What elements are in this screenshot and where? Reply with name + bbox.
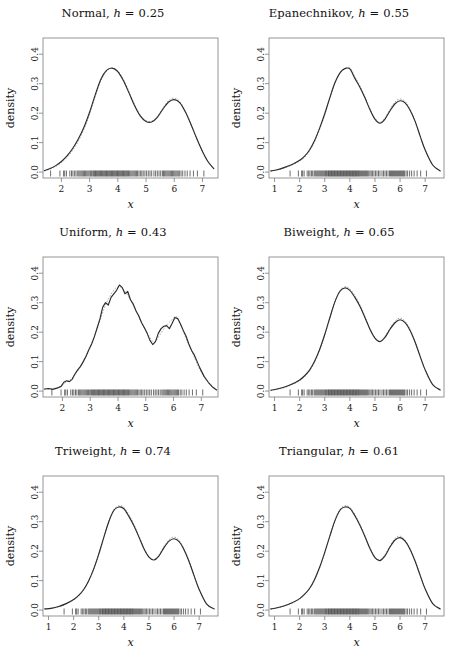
plot-frame (43, 257, 218, 397)
x-tick-label: 6 (397, 403, 403, 413)
x-tick-label: 5 (146, 622, 152, 632)
plot-triangular: 12345670.00.10.20.30.4xdensity (226, 438, 452, 657)
y-tick-label: 0.3 (256, 514, 266, 529)
plot-biweight: 12345670.00.10.20.30.4xdensity (226, 219, 452, 438)
x-tick-label: 3 (322, 184, 328, 194)
rug-plot (64, 609, 200, 615)
reference-curve (45, 506, 214, 610)
panel-epanechnikov: Epanechnikov, h = 0.55 12345670.00.10.20… (226, 0, 452, 219)
y-tick-label: 0.4 (256, 47, 266, 62)
y-tick-label: 0.2 (256, 544, 266, 558)
y-tick-label: 0.2 (30, 106, 40, 120)
x-axis-label: x (353, 198, 360, 211)
y-axis-label: density (4, 306, 17, 347)
x-tick-label: 7 (196, 622, 202, 632)
plot-triweight: 12345670.00.10.20.30.4xdensity (0, 438, 226, 657)
x-tick-label: 2 (297, 622, 303, 632)
y-tick-label: 0.4 (30, 266, 40, 281)
density-curve (271, 68, 440, 171)
plot-epanechnikov: 12345670.00.10.20.30.4xdensity (226, 0, 452, 219)
y-tick-label: 0.0 (30, 165, 40, 180)
plot-uniform: 2345670.00.10.20.30.4xdensity (0, 219, 226, 438)
plot-normal: 2345670.00.10.20.30.4xdensity (0, 0, 226, 219)
y-tick-label: 0.0 (256, 384, 266, 399)
panel-biweight: Biweight, h = 0.65 12345670.00.10.20.30.… (226, 219, 452, 438)
x-tick-label: 6 (397, 622, 403, 632)
y-tick-label: 0.1 (256, 354, 266, 368)
rug-plot (290, 390, 426, 396)
x-tick-label: 6 (171, 622, 177, 632)
y-tick-label: 0.1 (30, 573, 40, 587)
x-tick-label: 6 (171, 184, 177, 194)
x-tick-label: 1 (272, 403, 278, 413)
rug-plot (51, 171, 204, 177)
x-tick-label: 6 (171, 403, 177, 413)
y-tick-label: 0.0 (30, 603, 40, 618)
x-tick-label: 5 (372, 403, 378, 413)
x-tick-label: 4 (347, 403, 353, 413)
y-axis-label: density (4, 87, 17, 128)
y-tick-label: 0.2 (256, 106, 266, 120)
rug-plot (52, 390, 203, 396)
x-tick-label: 2 (58, 184, 64, 194)
y-tick-label: 0.3 (30, 76, 40, 91)
reference-curve (271, 506, 440, 610)
density-curve (44, 68, 213, 171)
x-axis-label: x (127, 417, 134, 430)
plot-frame (43, 476, 218, 616)
y-tick-label: 0.2 (30, 544, 40, 558)
y-tick-label: 0.3 (256, 295, 266, 310)
x-tick-label: 4 (115, 184, 121, 194)
x-tick-label: 3 (322, 403, 328, 413)
density-curve (271, 507, 440, 609)
density-curve (44, 285, 216, 390)
plot-frame (269, 257, 444, 397)
x-axis-label: x (127, 636, 134, 649)
x-tick-label: 7 (422, 184, 428, 194)
y-tick-label: 0.4 (256, 485, 266, 500)
x-tick-label: 6 (397, 184, 403, 194)
x-tick-label: 3 (87, 184, 93, 194)
y-axis-label: density (230, 306, 243, 347)
x-tick-label: 4 (347, 184, 353, 194)
x-tick-label: 4 (347, 622, 353, 632)
x-tick-label: 1 (272, 622, 278, 632)
x-axis-label: x (353, 636, 360, 649)
y-tick-label: 0.1 (30, 135, 40, 149)
y-tick-label: 0.4 (30, 485, 40, 500)
x-tick-label: 5 (372, 622, 378, 632)
y-tick-label: 0.1 (256, 135, 266, 149)
y-tick-label: 0.2 (256, 325, 266, 339)
y-tick-label: 0.0 (30, 384, 40, 399)
y-tick-label: 0.1 (30, 354, 40, 368)
x-tick-label: 2 (60, 403, 66, 413)
y-axis-label: density (4, 525, 17, 566)
y-tick-label: 0.2 (30, 325, 40, 339)
rug-plot (290, 609, 426, 615)
density-curve (271, 288, 440, 390)
x-tick-label: 5 (143, 403, 149, 413)
y-tick-label: 0.4 (256, 266, 266, 281)
density-curve (45, 507, 214, 609)
rug-plot (290, 171, 426, 177)
y-axis-label: density (230, 525, 243, 566)
x-tick-label: 7 (422, 622, 428, 632)
panel-normal: Normal, h = 0.25 2345670.00.10.20.30.4xd… (0, 0, 226, 219)
y-tick-label: 0.4 (30, 47, 40, 62)
panel-triweight: Triweight, h = 0.74 12345670.00.10.20.30… (0, 438, 226, 657)
x-tick-label: 3 (322, 622, 328, 632)
x-tick-label: 2 (297, 403, 303, 413)
x-axis-label: x (127, 198, 134, 211)
panel-uniform: Uniform, h = 0.43 2345670.00.10.20.30.4x… (0, 219, 226, 438)
plot-frame (43, 38, 218, 178)
y-tick-label: 0.3 (256, 76, 266, 91)
y-tick-label: 0.1 (256, 573, 266, 587)
reference-curve (44, 287, 216, 390)
x-tick-label: 4 (121, 622, 127, 632)
x-tick-label: 7 (200, 184, 206, 194)
plot-frame (269, 38, 444, 178)
x-tick-label: 3 (96, 622, 102, 632)
x-tick-label: 1 (46, 622, 52, 632)
reference-curve (271, 287, 440, 391)
x-axis-label: x (353, 417, 360, 430)
